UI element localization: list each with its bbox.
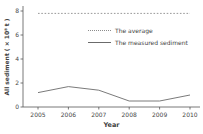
y-axis-label: All sediment ( × 10⁸ t ) [3, 18, 10, 95]
x-axis-label: Year [23, 121, 200, 129]
y-tick-label: 0 [15, 103, 19, 110]
x-tick-label: 2006 [61, 111, 76, 118]
average-line-swatch [88, 30, 111, 31]
legend-label-average: The average [115, 27, 153, 34]
x-tick-label: 2010 [182, 111, 197, 118]
measured-line-series [38, 87, 190, 101]
x-tick-label: 2009 [152, 111, 167, 118]
chart-plot-area: 02468200520062007200820092010 [0, 0, 203, 134]
legend-entry-average: The average [88, 26, 188, 35]
y-tick-label: 6 [15, 31, 19, 38]
y-tick-label: 8 [15, 7, 19, 14]
x-tick-label: 2007 [91, 111, 106, 118]
x-tick-label: 2008 [122, 111, 137, 118]
chart-legend: The average The measured sediment [88, 26, 188, 47]
legend-entry-measured: The measured sediment [88, 38, 188, 47]
y-tick-label: 2 [15, 79, 19, 86]
measured-line-swatch [88, 42, 111, 43]
sediment-line-chart-figure: 02468200520062007200820092010 All sedime… [0, 0, 203, 134]
y-tick-label: 4 [15, 55, 19, 62]
legend-label-measured: The measured sediment [115, 39, 188, 46]
x-tick-label: 2005 [30, 111, 45, 118]
